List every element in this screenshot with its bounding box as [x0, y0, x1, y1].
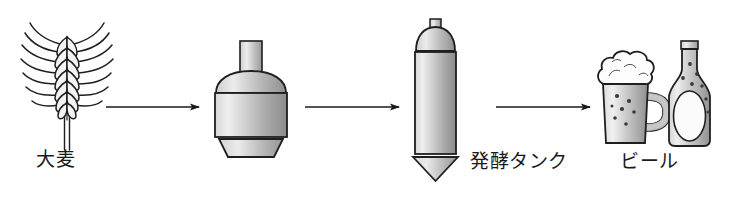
stage-label-fermentation-tank: 発酵タンク	[470, 152, 568, 171]
beer-mug-handle-icon	[646, 93, 670, 131]
barley-ear-icon	[21, 23, 113, 150]
brew-kettle-icon	[215, 41, 287, 157]
diagram-canvas	[0, 0, 741, 204]
stage-label-barley: 大麦	[36, 150, 75, 169]
beer-mug-icon	[598, 51, 654, 143]
beer-mug-and-bottle-icon	[598, 41, 710, 146]
fermentation-tank-icon	[413, 19, 458, 181]
brewing-process-diagram: 大麦 発酵タンク ビール	[0, 0, 741, 204]
stage-label-beer: ビール	[620, 152, 679, 171]
beer-bottle-icon	[669, 41, 710, 146]
